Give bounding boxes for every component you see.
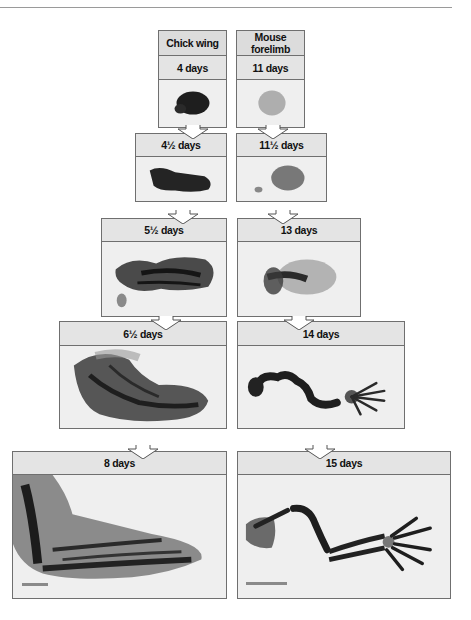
specimen-image [60,346,226,428]
chick-stage-1-panel: 4½ days [135,133,227,202]
stage-label: 8 days [13,452,226,475]
mouse-stage-1-panel: 11½ days [236,133,327,202]
scale-bar [22,583,48,586]
column-title-mouse: Mouse forelimb [237,31,304,56]
top-rule [0,7,452,8]
down-arrow-icon [266,210,300,224]
stage-label: 15 days [238,452,450,475]
stage-label: 6½ days [60,322,226,346]
chick-stage-0-panel: Chick wing 4 days [158,30,227,128]
down-arrow-icon [149,316,183,330]
down-arrow-icon [256,125,290,139]
stage-label: 14 days [238,322,404,346]
column-title-chick: Chick wing [159,31,226,56]
specimen-image [237,80,304,127]
mouse-stage-0-panel: Mouse forelimb 11 days [236,30,305,128]
mouse-stage-3-panel: 14 days [237,321,405,429]
mouse-stage-2-panel: 13 days [237,218,361,317]
chick-stage-4-panel: 8 days [12,451,227,599]
specimen-image [238,346,404,428]
specimen-image [136,157,226,201]
down-arrow-icon [126,445,160,459]
scale-bar [246,582,287,585]
stage-label: 11 days [237,56,304,80]
down-arrow-icon [303,445,337,459]
specimen-image [102,242,226,316]
down-arrow-icon [176,125,210,139]
specimen-image [159,80,226,127]
specimen-image [238,242,360,316]
specimen-image [13,475,226,598]
down-arrow-icon [282,316,316,330]
chick-stage-3-panel: 6½ days [59,321,227,429]
mouse-stage-4-panel: 15 days [237,451,451,599]
stage-label: 4 days [159,56,226,80]
specimen-image [237,157,326,201]
specimen-image [238,475,450,598]
down-arrow-icon [166,210,200,224]
stage-label: 5½ days [102,219,226,242]
chick-stage-2-panel: 5½ days [101,218,227,317]
